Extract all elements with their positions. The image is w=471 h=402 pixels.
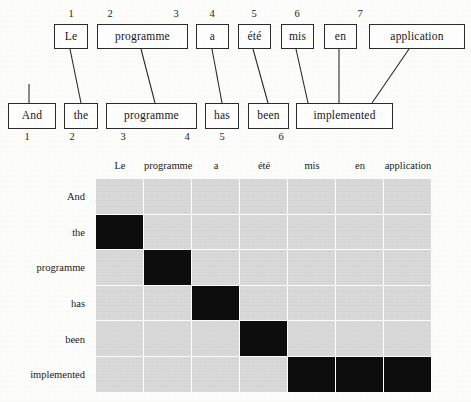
matrix-column-header: programme: [144, 160, 192, 171]
link-application-to-implemented: [372, 49, 409, 103]
matrix-cell-empty[interactable]: [384, 321, 432, 357]
matrix-cell-empty[interactable]: [288, 179, 336, 215]
matrix-cell-empty[interactable]: [288, 215, 336, 251]
matrix-cell-empty[interactable]: [96, 357, 144, 393]
target-index-label: 1: [19, 131, 35, 142]
matrix-cell-aligned[interactable]: [192, 286, 240, 322]
target-phrase-box[interactable]: programme: [106, 103, 197, 129]
matrix-cell-empty[interactable]: [192, 321, 240, 357]
matrix-cell-empty[interactable]: [144, 179, 192, 215]
matrix-column-header: été: [240, 160, 288, 171]
matrix-cell-empty[interactable]: [240, 286, 288, 322]
matrix-row-header: has: [0, 286, 90, 322]
matrix-cell-empty[interactable]: [144, 321, 192, 357]
target-phrase-box[interactable]: And: [8, 103, 56, 129]
matrix-cell-empty[interactable]: [384, 179, 432, 215]
target-index-label: 6: [273, 131, 289, 142]
matrix-cell-empty[interactable]: [240, 250, 288, 286]
matrix-cell-empty[interactable]: [240, 215, 288, 251]
matrix-cell-empty[interactable]: [192, 357, 240, 393]
matrix-cell-aligned[interactable]: [336, 357, 384, 393]
link-programme-to-programme: [141, 49, 155, 103]
matrix-cell-empty[interactable]: [96, 250, 144, 286]
source-phrase-box[interactable]: été: [238, 24, 271, 49]
matrix-cell-empty[interactable]: [240, 179, 288, 215]
source-phrase-box[interactable]: application: [369, 24, 465, 49]
matrix-cell-aligned[interactable]: [384, 357, 432, 393]
matrix-cell-empty[interactable]: [336, 215, 384, 251]
matrix-cell-empty[interactable]: [384, 250, 432, 286]
matrix-column-headers: Leprogrammeaétémisenapplication: [96, 160, 432, 178]
phrase-alignment-diagram: 1234567 Leprogrammeaétémisenapplication …: [0, 0, 471, 152]
link-mis-to-implemented: [296, 49, 308, 103]
matrix-cell-empty[interactable]: [192, 215, 240, 251]
matrix-cell-empty[interactable]: [288, 286, 336, 322]
target-phrase-box[interactable]: implemented: [296, 103, 393, 129]
source-index-label: 2: [102, 8, 118, 19]
matrix-cell-empty[interactable]: [144, 357, 192, 393]
matrix-cell-aligned[interactable]: [96, 215, 144, 251]
source-phrase-box[interactable]: en: [324, 24, 357, 49]
matrix-cell-empty[interactable]: [336, 321, 384, 357]
target-index-label: 3: [115, 131, 131, 142]
matrix-cell-empty[interactable]: [96, 286, 144, 322]
source-phrase-box[interactable]: mis: [281, 24, 314, 49]
matrix-cell-empty[interactable]: [336, 179, 384, 215]
matrix-column-header: a: [192, 160, 240, 171]
target-index-label: 5: [214, 131, 230, 142]
matrix-cell-empty[interactable]: [240, 357, 288, 393]
link-a-to-has: [212, 49, 222, 103]
link-ete-to-been: [253, 49, 268, 103]
matrix-cell-empty[interactable]: [288, 250, 336, 286]
source-index-label: 5: [246, 8, 262, 19]
source-index-label: 4: [204, 8, 220, 19]
target-phrase-box[interactable]: has: [205, 103, 239, 129]
matrix-cell-empty[interactable]: [96, 321, 144, 357]
source-index-label: 7: [352, 8, 368, 19]
matrix-cell-empty[interactable]: [144, 215, 192, 251]
matrix-row-header: programme: [0, 250, 90, 286]
source-phrase-box[interactable]: Le: [54, 24, 88, 49]
connector-lines: [0, 0, 471, 152]
source-phrase-box[interactable]: a: [196, 24, 229, 49]
matrix-column-header: application: [384, 160, 432, 171]
matrix-column-header: mis: [288, 160, 336, 171]
matrix-cell-aligned[interactable]: [240, 321, 288, 357]
matrix-cell-empty[interactable]: [384, 215, 432, 251]
target-index-label: 4: [179, 131, 195, 142]
matrix-row-header: the: [0, 215, 90, 251]
source-index-label: 6: [289, 8, 305, 19]
matrix-cell-empty[interactable]: [336, 250, 384, 286]
source-phrase-box[interactable]: programme: [97, 24, 188, 49]
alignment-matrix: Leprogrammeaétémisenapplication Andthepr…: [0, 152, 471, 402]
matrix-row-header: implemented: [0, 357, 90, 393]
matrix-cell-aligned[interactable]: [144, 250, 192, 286]
source-index-label: 3: [168, 8, 184, 19]
matrix-column-header: Le: [96, 160, 144, 171]
matrix-cell-empty[interactable]: [192, 250, 240, 286]
matrix-cell-empty[interactable]: [288, 321, 336, 357]
matrix-cell-empty[interactable]: [96, 179, 144, 215]
matrix-cell-empty[interactable]: [384, 286, 432, 322]
matrix-grid: [96, 179, 432, 393]
matrix-cell-empty[interactable]: [144, 286, 192, 322]
matrix-row-header: And: [0, 179, 90, 215]
target-phrase-box[interactable]: the: [64, 103, 98, 129]
target-phrase-box[interactable]: been: [248, 103, 289, 129]
link-le-to-the: [70, 49, 81, 103]
matrix-cell-empty[interactable]: [192, 179, 240, 215]
matrix-row-header: been: [0, 321, 90, 357]
matrix-cell-empty[interactable]: [336, 286, 384, 322]
matrix-cell-aligned[interactable]: [288, 357, 336, 393]
target-index-label: 2: [64, 131, 80, 142]
source-index-label: 1: [63, 8, 79, 19]
matrix-column-header: en: [336, 160, 384, 171]
